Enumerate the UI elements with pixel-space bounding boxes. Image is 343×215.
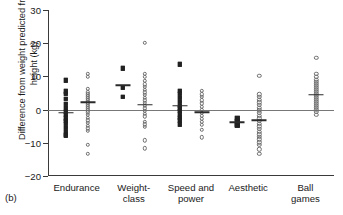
data-point [200,128,204,132]
data-point [200,123,204,127]
mean-bar [173,105,188,107]
data-point [63,134,67,138]
data-point [143,114,147,118]
y-tick-label: −10 [25,137,41,148]
data-point [143,138,147,142]
data-point [235,123,239,127]
x-axis-label-endurance: Endurance [53,182,99,193]
y-tick-label: 10 [30,71,41,82]
data-point [63,78,67,82]
data-point [85,129,89,133]
data-point [178,62,182,66]
data-point [121,95,125,99]
y-tick-mark [43,143,48,144]
mean-bar [115,84,130,86]
mean-bar [80,102,95,104]
mean-bar [230,121,245,123]
y-tick-label: 30 [30,5,41,16]
data-point [143,125,147,129]
y-tick-mark [43,110,48,111]
y-tick-label: 20 [30,38,41,49]
x-axis-label-aesthetic: Aesthetic [228,182,267,193]
y-tick-label: −20 [25,171,41,182]
data-point [85,75,89,79]
data-point [143,41,147,45]
data-point [314,56,318,60]
data-point [178,122,182,126]
data-point [63,91,67,95]
mean-bar [252,119,267,121]
x-axis-label-ball-games: Ball games [287,182,325,204]
mean-bar [195,112,210,114]
mean-bar [58,112,73,114]
y-tick-label: 0 [36,104,41,115]
data-point [257,152,261,156]
y-tick-mark [43,43,48,44]
plot-area: −20−100102030 [48,10,334,176]
y-tick-mark [43,76,48,77]
y-tick-mark [43,176,48,177]
data-point [121,66,125,70]
data-point [257,74,261,78]
data-point [314,113,318,117]
data-point [85,152,89,156]
data-point [121,85,125,89]
mean-bar [137,104,152,106]
y-tick-mark [43,10,48,11]
x-axis-line [48,175,334,176]
panel-label: (b) [5,192,17,203]
mean-bar [309,94,324,96]
data-point [85,143,89,147]
figure-panel: Difference from weight predicted from he… [0,0,343,215]
zero-reference-line [48,110,334,111]
y-axis-line [48,10,49,176]
data-point [143,146,147,150]
data-point [200,135,204,139]
x-axis-label-speed-and-power: Speed and power [168,182,214,204]
x-axis-label-weight-class: Weight- class [117,182,150,204]
